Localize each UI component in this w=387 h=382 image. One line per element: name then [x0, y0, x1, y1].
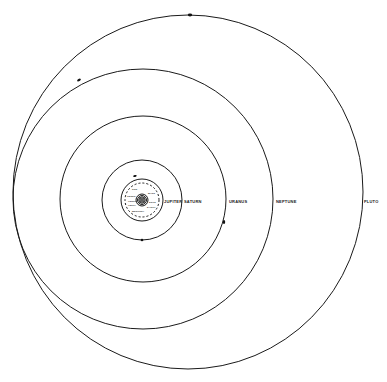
label-pluto: PLUTO — [364, 199, 378, 204]
label-uranus: URANUS — [229, 199, 247, 204]
label-mercury: MERCURY — [132, 210, 145, 212]
label-mars: MARS — [148, 192, 156, 194]
solar-system-diagram: JUPITER SATURN URANUS NEPTUNE PLUTO SUN … — [0, 0, 387, 382]
label-ceres: CERES — [127, 195, 136, 197]
label-sun: SUN — [132, 188, 137, 190]
sun-icon — [141, 199, 143, 201]
pluto-marker-icon — [188, 14, 192, 17]
label-venus: VENUS — [128, 200, 137, 202]
uranus-marker-icon — [223, 220, 225, 224]
label-vesta: VESTA — [128, 204, 136, 206]
orbit-diagram: JUPITER SATURN URANUS NEPTUNE PLUTO SUN … — [0, 0, 387, 382]
neptune-marker-icon — [77, 78, 82, 82]
label-jupiter: JUPITER — [164, 199, 182, 204]
jupiter-marker-icon — [133, 175, 137, 178]
saturn-marker-icon — [141, 239, 144, 242]
pluto-orbit — [13, 15, 363, 369]
label-saturn: SATURN — [184, 199, 202, 204]
label-neptune: NEPTUNE — [276, 199, 297, 204]
label-earth: EARTH — [147, 206, 156, 208]
label-eros: EROS — [149, 201, 156, 203]
